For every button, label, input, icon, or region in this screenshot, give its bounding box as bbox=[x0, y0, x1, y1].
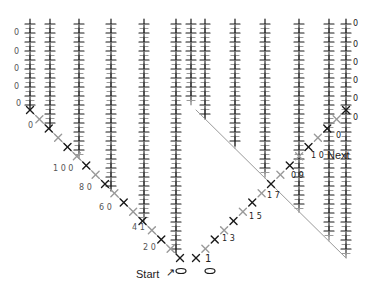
start-arrow-icon: ↗ bbox=[166, 266, 175, 279]
edge-zero-right-6: 0 bbox=[353, 113, 358, 122]
left-count-0: 0 bbox=[28, 121, 33, 130]
left-count-100: 1 0 0 bbox=[53, 164, 73, 173]
edge-zero-left-3: 0 bbox=[14, 64, 19, 73]
left-count-20: 2 0 bbox=[143, 243, 156, 252]
edge-zero-right-3: 0 bbox=[353, 58, 358, 67]
edge-zero-left-4: 0 bbox=[14, 82, 19, 91]
right-count-17: 1 7 bbox=[267, 191, 280, 200]
right-count-15: 1 5 bbox=[249, 212, 262, 221]
edge-zero-left-1: 0 bbox=[14, 28, 19, 37]
left-count-41: 4 1 bbox=[132, 223, 145, 232]
left-count-80: 8 0 bbox=[79, 183, 92, 192]
right-count-1: 1 bbox=[205, 253, 211, 264]
edge-zero-left-5: 0 bbox=[16, 99, 21, 108]
edge-zero-right-4: 0 bbox=[353, 76, 358, 85]
edge-zero-right-1: 0 bbox=[353, 19, 358, 28]
edge-zero-left-2: 0 bbox=[14, 47, 19, 56]
next-label: Next bbox=[327, 149, 350, 161]
right-count-09: 0 9 bbox=[291, 171, 304, 180]
edge-zero-right-2: 0 bbox=[353, 40, 358, 49]
right-count-10: 1 0 bbox=[311, 151, 324, 160]
start-label: Start bbox=[136, 268, 159, 280]
left-count-60: 6 0 bbox=[99, 203, 112, 212]
crochet-chart bbox=[0, 0, 374, 287]
right-count-13: 1 3 bbox=[222, 234, 235, 243]
edge-zero-right-5: 0 bbox=[353, 94, 358, 103]
edge-zero-right-7: 0 bbox=[336, 131, 341, 140]
